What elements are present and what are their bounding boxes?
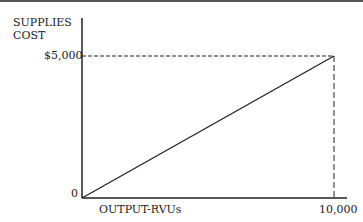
cost-line — [82, 56, 334, 198]
chart-canvas — [0, 0, 363, 222]
y-axis-label-line1: SUPPLIES — [13, 16, 72, 29]
x-axis-label: OUTPUT-RVUs — [99, 203, 182, 216]
y-tick-5000: $5,000 — [44, 49, 83, 62]
y-tick-0: 0 — [71, 187, 78, 200]
x-tick-10000: 10,000 — [319, 203, 358, 216]
y-axis-label-line2: COST — [13, 29, 45, 42]
